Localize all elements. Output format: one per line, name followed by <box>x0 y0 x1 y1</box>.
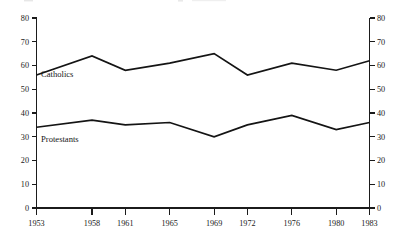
y-tick-label-left: 30 <box>21 133 29 142</box>
x-tick-label: 1980 <box>328 219 344 228</box>
series-group <box>37 54 370 137</box>
y-tick-label-left: 60 <box>21 61 29 70</box>
y-tick-label-right: 40 <box>377 109 385 118</box>
y-tick-label-right: 60 <box>377 61 385 70</box>
series-label-catholics: Catholics <box>41 69 74 79</box>
y-tick-label-left: 20 <box>21 156 29 165</box>
x-axis-tick-labels: 195319581961196519691972197619801983 <box>28 219 377 228</box>
cut-off-caption-remnant <box>24 0 226 2</box>
y-axis-left-tick-labels: 01020304050607080 <box>21 14 29 213</box>
y-tick-label-right: 50 <box>377 85 385 94</box>
series-line-protestants <box>37 115 370 136</box>
line-chart-figure: 01020304050607080 01020304050607080 1953… <box>0 0 404 242</box>
y-axis-left: 01020304050607080 <box>21 14 37 213</box>
y-tick-label-right: 30 <box>377 133 385 142</box>
y-tick-label-right: 70 <box>377 38 385 47</box>
y-tick-label-right: 20 <box>377 156 385 165</box>
y-tick-label-left: 80 <box>21 14 29 23</box>
series-line-catholics <box>37 54 370 75</box>
x-tick-label: 1972 <box>239 219 255 228</box>
x-tick-label: 1969 <box>206 219 222 228</box>
x-axis: 195319581961196519691972197619801983 <box>28 208 377 228</box>
y-tick-label-right: 0 <box>377 204 381 213</box>
x-tick-label: 1965 <box>162 219 178 228</box>
y-tick-label-left: 50 <box>21 85 29 94</box>
series-label-protestants: Protestants <box>41 134 79 144</box>
y-tick-label-left: 0 <box>25 204 29 213</box>
x-tick-label: 1958 <box>84 219 100 228</box>
y-tick-label-left: 10 <box>21 180 29 189</box>
x-tick-label: 1983 <box>361 219 377 228</box>
y-tick-label-left: 70 <box>21 38 29 47</box>
y-axis-right-tick-labels: 01020304050607080 <box>377 14 385 213</box>
x-tick-label: 1961 <box>117 219 133 228</box>
y-tick-label-right: 10 <box>377 180 385 189</box>
chart-canvas: 01020304050607080 01020304050607080 1953… <box>0 0 404 242</box>
y-tick-label-right: 80 <box>377 14 385 23</box>
x-axis-ticks <box>37 208 370 215</box>
y-tick-label-left: 40 <box>21 109 29 118</box>
x-tick-label: 1976 <box>284 219 300 228</box>
y-axis-right: 01020304050607080 <box>370 14 386 213</box>
x-tick-label: 1953 <box>28 219 44 228</box>
